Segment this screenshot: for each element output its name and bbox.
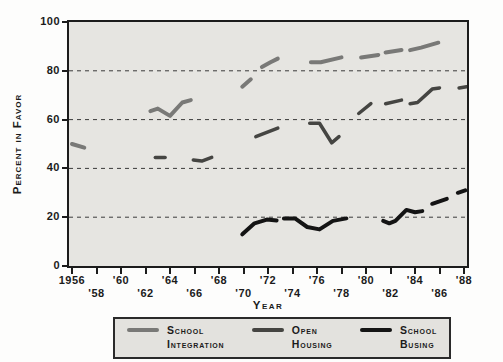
series-open-housing xyxy=(193,157,211,161)
figure: Percent in Favor 020406080100 1956'58'60… xyxy=(0,0,503,362)
x-tick-label-1966: '66 xyxy=(173,287,217,299)
legend-label-line2: Integration xyxy=(167,338,224,352)
y-tick-mark-0 xyxy=(62,265,68,267)
series-school-busing xyxy=(458,190,465,192)
y-tick-label-60: 60 xyxy=(0,113,60,125)
series-open-housing xyxy=(386,100,402,104)
y-tick-mark-80 xyxy=(62,70,68,72)
series-school-integration xyxy=(72,144,84,148)
x-tick-label-1960: '60 xyxy=(99,274,143,286)
x-tick-label-1962: '62 xyxy=(124,287,168,299)
x-tick-label-1982: '82 xyxy=(369,287,413,299)
legend-label-line1: Open xyxy=(292,324,333,338)
plot-area xyxy=(67,20,469,268)
x-tick-label-1970: '70 xyxy=(222,287,266,299)
x-tick-label-1964: '64 xyxy=(148,274,192,286)
open-housing-line-key xyxy=(252,328,284,332)
x-tick-label-1972: '72 xyxy=(246,274,290,286)
x-tick-mark-1958 xyxy=(96,268,98,274)
legend-label-line2: Housing xyxy=(292,338,333,352)
x-tick-mark-1970 xyxy=(243,268,245,274)
x-axis-title: Year xyxy=(208,299,328,311)
y-tick-mark-20 xyxy=(62,216,68,218)
x-tick-mark-1986 xyxy=(439,268,441,274)
y-tick-mark-40 xyxy=(62,167,68,169)
x-tick-label-1974: '74 xyxy=(271,287,315,299)
legend-item-school-busing: School Busing xyxy=(360,324,437,351)
x-tick-mark-1962 xyxy=(145,268,147,274)
series-school-busing xyxy=(383,210,422,223)
chart-canvas xyxy=(69,22,467,266)
legend-label-line1: School xyxy=(400,324,437,338)
series-school-integration xyxy=(361,55,378,58)
series-open-housing xyxy=(410,88,439,104)
legend-label-line1: School xyxy=(167,324,224,338)
series-school-busing xyxy=(242,220,276,235)
y-tick-label-0: 0 xyxy=(0,259,60,271)
y-tick-mark-60 xyxy=(62,119,68,121)
series-school-busing xyxy=(432,199,447,204)
series-open-housing xyxy=(256,128,278,137)
y-tick-mark-100 xyxy=(62,21,68,23)
y-tick-label-40: 40 xyxy=(0,161,60,173)
series-open-housing xyxy=(310,123,339,143)
x-tick-mark-1978 xyxy=(341,268,343,274)
y-tick-label-100: 100 xyxy=(0,15,60,27)
legend-label-line2: Busing xyxy=(400,338,437,352)
y-tick-label-20: 20 xyxy=(0,210,60,222)
legend-label-school-integration: School Integration xyxy=(167,324,224,351)
legend-item-open-housing: Open Housing xyxy=(252,324,333,351)
legend-label-open-housing: Open Housing xyxy=(292,324,333,351)
series-school-integration xyxy=(410,43,438,50)
x-tick-label-1988: '88 xyxy=(442,274,486,286)
y-axis-title: Percent in Favor xyxy=(11,94,23,195)
x-tick-mark-1974 xyxy=(292,268,294,274)
x-tick-label-1976: '76 xyxy=(295,274,339,286)
school-integration-line-key xyxy=(127,328,159,332)
x-tick-label-1984: '84 xyxy=(393,274,437,286)
x-tick-label-1956: 1956 xyxy=(50,274,94,286)
legend: School Integration Open Housing School B… xyxy=(113,317,451,359)
x-tick-label-1980: '80 xyxy=(344,274,388,286)
series-school-busing xyxy=(284,218,347,229)
x-tick-label-1968: '68 xyxy=(197,274,241,286)
series-school-integration xyxy=(386,50,402,52)
series-open-housing xyxy=(359,104,371,114)
x-tick-mark-1966 xyxy=(194,268,196,274)
series-school-integration xyxy=(262,59,278,68)
x-tick-label-1986: '86 xyxy=(418,287,462,299)
series-school-integration xyxy=(150,100,190,116)
legend-item-school-integration: School Integration xyxy=(127,324,224,351)
x-tick-label-1958: '58 xyxy=(75,287,119,299)
series-school-integration xyxy=(242,79,251,86)
school-busing-line-key xyxy=(360,328,392,332)
x-tick-label-1978: '78 xyxy=(320,287,364,299)
legend-label-school-busing: School Busing xyxy=(400,324,437,351)
series-open-housing xyxy=(459,87,466,88)
y-tick-label-80: 80 xyxy=(0,64,60,76)
series-school-integration xyxy=(311,57,342,62)
x-tick-mark-1982 xyxy=(390,268,392,274)
